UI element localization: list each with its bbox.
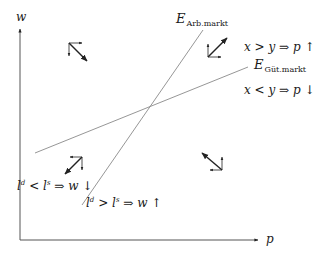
arbeitsmarkt-label-sub: Arb.markt (187, 19, 229, 28)
guetermarkt-label-sub: Güt.markt (265, 65, 307, 74)
guetermarkt-curve (35, 67, 248, 153)
goods-excess-rhs: p (293, 40, 301, 54)
arbeitsmarkt-curve (82, 30, 203, 205)
arbeitsmarkt-label-main: E (176, 11, 186, 26)
goods-shortage-lhs: x < y (244, 83, 275, 97)
labor-excess-supply-condition: ld < ls ⇒ w ↓ (17, 180, 92, 192)
goods-excess-condition: x > y ⇒ p ↑ (244, 41, 315, 53)
arbeitsmarkt-label: EArb.markt (176, 12, 228, 25)
x-axis-label: p (266, 233, 274, 245)
labor-demand-superscript: d (90, 196, 94, 204)
up-arrow-icon: ↑ (151, 196, 161, 210)
implies-symbol: ⇒ (279, 83, 289, 97)
wage-symbol: w (68, 179, 78, 193)
labor-demand-superscript: d (21, 179, 25, 187)
dynamics-arrow-bottom-left (65, 157, 82, 174)
y-axis-label: w (16, 11, 26, 23)
labor-supply-superscript: s (116, 196, 120, 204)
wage-symbol: w (137, 196, 147, 210)
dynamics-arrow-top-right (208, 38, 227, 57)
down-arrow-icon: ↓ (82, 179, 92, 193)
implies-symbol: ⇒ (123, 196, 133, 210)
dynamics-arrow-top-left (69, 43, 87, 61)
implies-symbol: ⇒ (279, 40, 289, 54)
dynamics-arrow-bottom-right (202, 153, 222, 170)
up-arrow-icon: ↑ (304, 40, 314, 54)
goods-shortage-condition: x < y ⇒ p ↓ (244, 84, 315, 96)
down-arrow-icon: ↓ (304, 83, 314, 97)
less-than-symbol: < (29, 179, 39, 193)
goods-shortage-rhs: p (293, 83, 301, 97)
goods-excess-lhs: x > y (244, 40, 275, 54)
guetermarkt-label: EGüt.markt (254, 58, 306, 71)
guetermarkt-label-main: E (254, 57, 264, 72)
labor-excess-demand-condition: ld > ls ⇒ w ↑ (86, 197, 161, 209)
labor-supply-superscript: s (47, 179, 51, 187)
diagram-canvas (0, 0, 326, 257)
implies-symbol: ⇒ (54, 179, 64, 193)
greater-than-symbol: > (98, 196, 108, 210)
